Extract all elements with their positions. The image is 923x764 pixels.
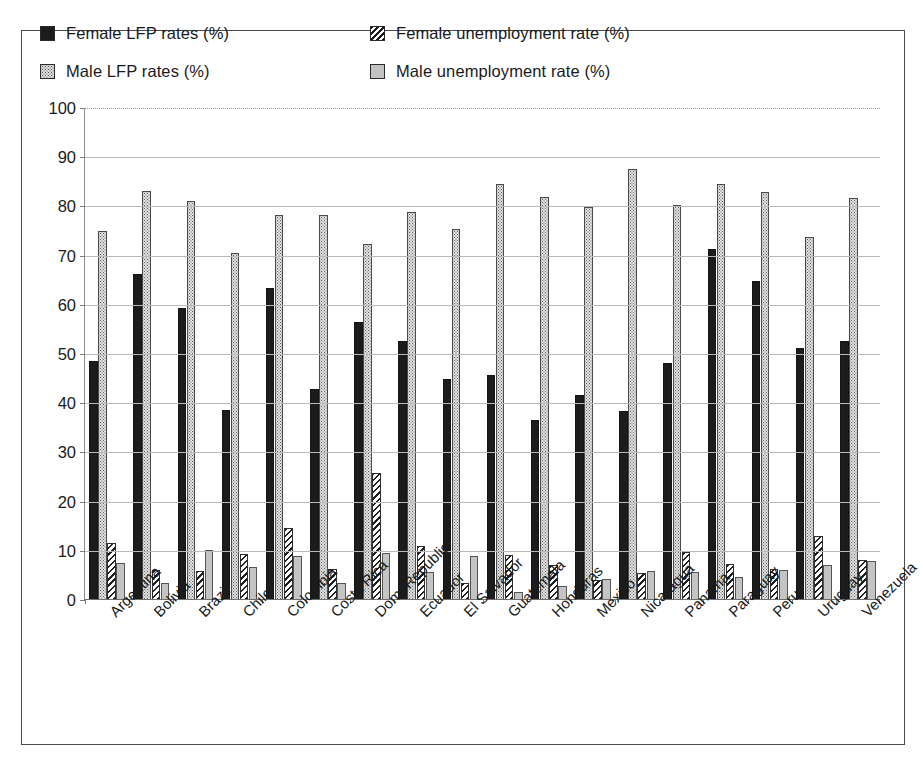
legend-label-male-lfp: Male LFP rates (%) bbox=[66, 62, 210, 81]
legend-item-male-unemployment: Male unemployment rate (%) bbox=[370, 62, 700, 81]
bar-male-lfp bbox=[363, 244, 372, 599]
x-axis-labels: ArgentinaBoliviaBrazilChileColombiaCosta… bbox=[84, 602, 880, 707]
x-axis-label-cell: Bolivia bbox=[128, 602, 172, 707]
bar-male-lfp bbox=[275, 215, 284, 599]
chart-page: Female LFP rates (%) Female unemployment… bbox=[0, 0, 923, 764]
diagonal-hatch-square-icon bbox=[370, 26, 385, 41]
bar-female-lfp bbox=[443, 379, 452, 599]
y-axis-tick-label: 80 bbox=[58, 197, 76, 216]
bar-male-lfp bbox=[673, 205, 682, 599]
x-axis-label-cell: Guatemala bbox=[482, 602, 526, 707]
bar-male-lfp bbox=[717, 184, 726, 599]
y-axis-tick-label: 0 bbox=[67, 591, 76, 610]
x-axis-label-cell: Dom. Republic bbox=[349, 602, 393, 707]
gridline bbox=[85, 452, 880, 453]
legend-item-male-lfp: Male LFP rates (%) bbox=[40, 62, 370, 81]
bar-male-lfp bbox=[98, 231, 107, 599]
x-axis-label-cell: Colombia bbox=[261, 602, 305, 707]
x-axis-label-cell: Nicaragua bbox=[615, 602, 659, 707]
bar-male-lfp bbox=[628, 169, 637, 599]
dotted-square-icon bbox=[40, 64, 55, 79]
x-axis-label-cell: Ecuador bbox=[394, 602, 438, 707]
y-axis-tick-mark bbox=[80, 600, 85, 601]
legend-item-female-lfp: Female LFP rates (%) bbox=[40, 24, 370, 43]
bar-male-lfp bbox=[407, 212, 416, 599]
y-axis-tick-label: 60 bbox=[58, 295, 76, 314]
x-axis-label-cell: Brazil bbox=[172, 602, 216, 707]
bar-female-unemployment bbox=[814, 536, 823, 599]
gridline bbox=[85, 551, 880, 552]
y-axis-tick-label: 100 bbox=[48, 99, 76, 118]
bar-female-lfp bbox=[840, 341, 849, 599]
chart-plot-wrapper: 1009080706050403020100 ArgentinaBoliviaB… bbox=[36, 108, 884, 708]
y-axis-tick-label: 20 bbox=[58, 492, 76, 511]
solid-black-square-icon bbox=[40, 26, 55, 41]
legend-label-female-unemployment: Female unemployment rate (%) bbox=[396, 24, 630, 43]
x-axis-label-cell: Argentina bbox=[84, 602, 128, 707]
gridline bbox=[85, 305, 880, 306]
bar-female-lfp bbox=[796, 348, 805, 599]
bar-male-lfp bbox=[849, 198, 858, 599]
bar-male-lfp bbox=[142, 191, 151, 599]
bar-female-lfp bbox=[487, 375, 496, 599]
x-axis-label-cell: Costa Rica bbox=[305, 602, 349, 707]
gridline bbox=[85, 354, 880, 355]
y-axis-tick-label: 50 bbox=[58, 345, 76, 364]
legend-label-male-unemployment: Male unemployment rate (%) bbox=[396, 62, 610, 81]
bar-male-lfp bbox=[805, 237, 814, 599]
gridline bbox=[85, 502, 880, 503]
bar-female-lfp bbox=[354, 322, 363, 599]
gridline bbox=[85, 403, 880, 404]
bar-male-lfp bbox=[319, 215, 328, 599]
y-axis-tick-label: 10 bbox=[58, 541, 76, 560]
bar-male-lfp bbox=[496, 184, 505, 599]
bar-male-lfp bbox=[761, 192, 770, 599]
chart-legend: Female LFP rates (%) Female unemployment… bbox=[40, 14, 840, 90]
x-axis-label-cell: Venezuela bbox=[836, 602, 880, 707]
bar-female-unemployment bbox=[196, 571, 205, 599]
bar-female-lfp bbox=[575, 395, 584, 599]
bar-male-lfp bbox=[452, 229, 461, 599]
bar-female-lfp bbox=[266, 288, 275, 599]
bar-female-lfp bbox=[619, 411, 628, 599]
bar-female-lfp bbox=[222, 410, 231, 599]
gridline bbox=[85, 206, 880, 207]
plot-area bbox=[84, 108, 880, 600]
bar-female-lfp bbox=[398, 341, 407, 599]
y-axis-tick-label: 30 bbox=[58, 443, 76, 462]
x-axis-label-cell: Mexico bbox=[570, 602, 614, 707]
x-axis-label-cell: El Salvador bbox=[438, 602, 482, 707]
y-axis: 1009080706050403020100 bbox=[36, 108, 82, 600]
legend-label-female-lfp: Female LFP rates (%) bbox=[66, 24, 229, 43]
x-axis-label-cell: Chile bbox=[217, 602, 261, 707]
bar-female-lfp bbox=[178, 308, 187, 599]
x-axis-label-cell: Honduras bbox=[526, 602, 570, 707]
gridline bbox=[85, 157, 880, 158]
x-axis-label-cell: Paraguay bbox=[703, 602, 747, 707]
bar-female-unemployment bbox=[240, 554, 249, 599]
bar-male-lfp bbox=[187, 201, 196, 599]
bar-female-unemployment bbox=[284, 528, 293, 599]
bar-female-lfp bbox=[663, 363, 672, 599]
gridline bbox=[85, 256, 880, 257]
x-axis-label-cell: Uruguay bbox=[792, 602, 836, 707]
bar-female-lfp bbox=[708, 249, 717, 599]
bar-female-lfp bbox=[89, 361, 98, 599]
gridline bbox=[85, 108, 880, 109]
y-axis-tick-label: 90 bbox=[58, 148, 76, 167]
legend-item-female-unemployment: Female unemployment rate (%) bbox=[370, 24, 700, 43]
x-axis-label-cell: Peru bbox=[747, 602, 791, 707]
x-axis-label-cell: Panama bbox=[659, 602, 703, 707]
gray-square-icon bbox=[370, 64, 385, 79]
y-axis-tick-label: 40 bbox=[58, 394, 76, 413]
y-axis-tick-label: 70 bbox=[58, 246, 76, 265]
bar-male-lfp bbox=[540, 197, 549, 599]
bar-female-lfp bbox=[310, 389, 319, 599]
